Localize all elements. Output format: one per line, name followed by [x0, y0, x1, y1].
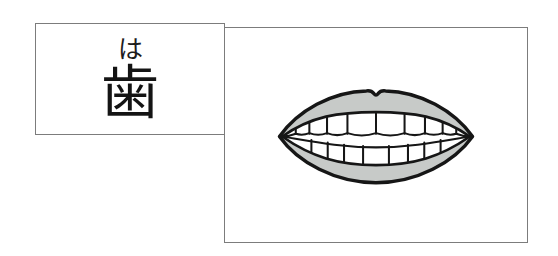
kanji-character: 歯 [101, 63, 159, 124]
mouth-illustration [274, 82, 478, 191]
picture-card [224, 27, 528, 243]
kanji-card: は 歯 [35, 23, 225, 135]
worksheet-page: は 歯 [0, 0, 558, 256]
